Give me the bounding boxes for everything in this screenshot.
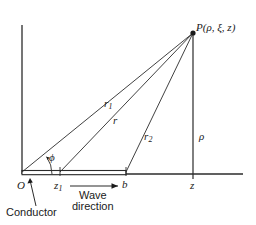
label-wave-direction: Wavedirection — [72, 190, 114, 212]
label-r1-subscript: 1 — [108, 102, 112, 111]
wave-direction-arrowhead — [112, 183, 119, 188]
label-rho: ρ — [199, 131, 204, 142]
label-z1-subscript: 1 — [58, 184, 62, 193]
label-wave-line2: direction — [72, 201, 114, 212]
label-z: z — [190, 180, 194, 191]
label-b: b — [122, 179, 128, 190]
label-origin: O — [17, 180, 25, 191]
conductor-bar — [22, 171, 126, 175]
label-conductor: Conductor — [6, 207, 57, 218]
label-r: r — [113, 115, 117, 126]
line-r — [60, 33, 193, 172]
figure-container: P(ρ, ξ, z) r1 r r2 ρ ϕ O z1 b z Wavedire… — [0, 0, 256, 225]
label-point-p: P(ρ, ξ, z) — [196, 22, 235, 33]
point-p-marker — [190, 30, 195, 35]
label-r2: r2 — [144, 131, 153, 144]
label-z1: z1 — [54, 180, 63, 193]
line-r2 — [126, 33, 193, 172]
label-r1: r1 — [104, 98, 113, 111]
conductor-leader-arrowhead — [27, 178, 32, 184]
label-r2-subscript: 2 — [148, 135, 152, 144]
label-phi: ϕ — [49, 152, 55, 163]
conductor-leader-line — [30, 180, 36, 206]
diagram-canvas — [0, 0, 256, 225]
